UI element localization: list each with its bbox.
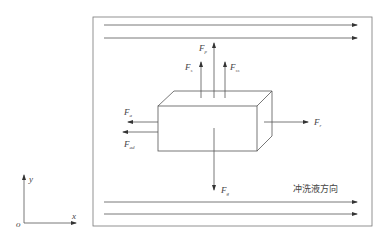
axis-y-label: y — [28, 174, 33, 184]
flow-lines-bottom — [104, 202, 357, 214]
label-fad: Fad — [123, 139, 135, 150]
label-fs: Fs — [184, 62, 193, 73]
flow-direction-label: 冲洗液方向 — [293, 183, 338, 194]
channel-frame — [93, 17, 372, 226]
flow-lines-top — [104, 25, 357, 38]
label-fss: Fss — [229, 62, 239, 73]
label-fp: Fp — [198, 43, 208, 54]
particle-box — [158, 91, 272, 151]
force-diagram: Fp Fs Fss Fa Fad Fr Fg 冲洗液方向 o y x — [0, 0, 385, 240]
label-fg: Fg — [220, 185, 230, 196]
axis-x-label: x — [71, 211, 76, 221]
label-fr: Fr — [313, 117, 322, 128]
drag-force-arrows — [123, 122, 158, 132]
label-fa: Fa — [123, 107, 133, 118]
axis-origin-label: o — [16, 219, 21, 229]
